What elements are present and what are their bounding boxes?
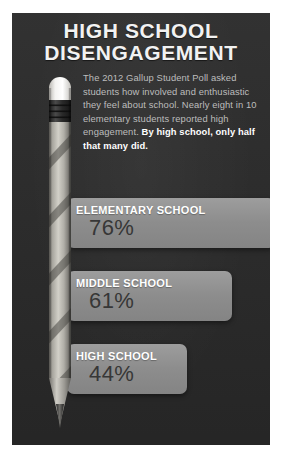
page-title: HIGH SCHOOL DISENGAGEMENT <box>12 20 270 64</box>
bar-middle-school: MIDDLE SCHOOL 61% <box>67 271 232 321</box>
bar-elementary-school: ELEMENTARY SCHOOL 76% <box>67 198 270 248</box>
infographic-poster: HIGH SCHOOL DISENGAGEMENT The 2012 Gallu… <box>12 13 270 445</box>
bar-value: 44% <box>89 362 134 386</box>
title-line-1: HIGH SCHOOL <box>64 19 219 42</box>
body-paragraph: The 2012 Gallup Student Poll asked stude… <box>83 71 264 153</box>
bar-value: 61% <box>89 289 134 313</box>
bar-value: 76% <box>89 216 134 240</box>
pencil-icon <box>45 76 75 441</box>
title-line-2: DISENGAGEMENT <box>12 42 270 64</box>
bar-high-school: HIGH SCHOOL 44% <box>67 344 187 394</box>
